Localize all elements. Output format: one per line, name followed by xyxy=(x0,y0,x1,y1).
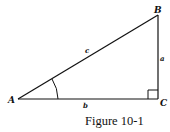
vertex-label-a: A xyxy=(7,95,15,105)
right-triangle-diagram: A B C a b c Figure 10-1 xyxy=(0,0,170,132)
side-label-c: c xyxy=(85,46,90,55)
vertex-label-c: C xyxy=(160,98,168,108)
figure-caption: Figure 10-1 xyxy=(85,114,144,128)
side-c-hypotenuse xyxy=(18,15,158,99)
side-label-a: a xyxy=(160,54,165,63)
right-angle-marker xyxy=(148,90,158,99)
side-label-b: b xyxy=(83,101,88,110)
angle-a-arc xyxy=(52,79,58,99)
vertex-label-b: B xyxy=(153,5,162,15)
